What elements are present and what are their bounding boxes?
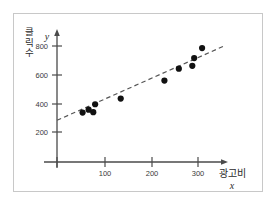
x-tick-label-300: 300 — [192, 169, 205, 178]
y-tick-label-600: 600 — [35, 71, 48, 80]
data-point — [90, 109, 96, 115]
chart-figure: 클 릭 수 800 600 400 — [0, 0, 277, 206]
x-axis — [44, 159, 228, 165]
data-point — [176, 66, 182, 72]
regression-trendline — [57, 45, 226, 120]
y-axis — [54, 29, 60, 168]
data-point — [199, 45, 205, 51]
data-point — [92, 101, 98, 107]
y-tick-label-800: 800 — [35, 42, 48, 51]
y-axis-variable: y — [44, 31, 50, 42]
y-tick-label-200: 200 — [35, 128, 48, 137]
x-tick-label-200: 200 — [146, 169, 159, 178]
data-points — [79, 45, 205, 116]
x-axis-variable: x — [229, 180, 235, 191]
data-point — [191, 55, 197, 61]
data-point — [79, 109, 85, 115]
x-tick-label-100: 100 — [99, 169, 112, 178]
data-point — [118, 95, 124, 101]
x-axis-label: 광고비 — [219, 168, 246, 179]
scatter-plot: 800 600 400 200 100 200 300 y 광고비 x — [0, 0, 277, 206]
data-point — [189, 63, 195, 69]
data-point — [161, 78, 167, 84]
y-tick-label-400: 400 — [35, 100, 48, 109]
